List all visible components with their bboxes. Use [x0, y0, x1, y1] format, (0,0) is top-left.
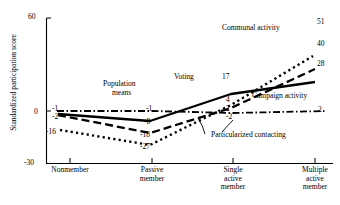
value-label-voting-single: 17: [222, 72, 230, 81]
value-label-pc-passive: -1: [146, 104, 152, 113]
value-label-campaign-multiple: 40: [317, 39, 325, 48]
series-label-campaign-activity: Campaign activity: [252, 91, 307, 100]
value-label-campaign-passive: -18: [140, 130, 150, 139]
x-tick-label-multiple-line3: member: [285, 183, 340, 192]
series-line-particularized-contacting: [57, 111, 327, 113]
annotation-leader-particularized: [198, 118, 205, 134]
value-label-voting-nonmember: -2: [52, 112, 58, 121]
value-label-pc-single: -2: [226, 112, 232, 121]
x-tick-label-single-active-member: Single active member: [203, 166, 263, 192]
value-label-communal-nonmember: -16: [46, 127, 56, 136]
y-tick-marks: [47, 18, 52, 164]
value-label-voting-passive: -8: [144, 117, 150, 126]
value-label-pc-multiple: 2: [318, 105, 322, 114]
value-label-communal-multiple: 51: [317, 17, 325, 26]
series-label-particularized-contacting: Particularized contacting: [211, 130, 286, 139]
reference-label-line2: means: [112, 89, 131, 97]
chart-figure: Standardized participation score 60 0 -3…: [0, 0, 340, 205]
series-label-communal-activity: Communal activity: [222, 23, 280, 32]
value-label-voting-multiple: 28: [317, 59, 325, 68]
x-tick-label-multiple-active-member: Multiple active member: [285, 166, 340, 192]
series-label-voting: Voting: [174, 72, 194, 81]
x-tick-label-nonmember: Nonmember: [35, 166, 105, 175]
value-label-communal-passive: -27: [140, 142, 150, 151]
x-tick-label-single-line3: member: [203, 183, 263, 192]
x-tick-label-nonmember-line1: Nonmember: [35, 166, 105, 175]
value-label-communal-single: 4: [226, 95, 230, 104]
x-tick-marks: [70, 158, 315, 164]
x-tick-label-passive-member: Passive member: [122, 166, 182, 183]
x-tick-label-passive-line2: member: [122, 175, 182, 184]
